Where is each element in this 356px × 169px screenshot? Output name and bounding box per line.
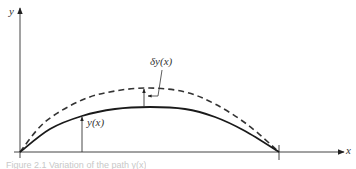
variation-diagram (0, 0, 356, 169)
figure-caption: Figure 2.1 Variation of the path y(x) (6, 161, 146, 169)
delta-y-label: δy(x) (150, 56, 172, 67)
x-axis-label: x (346, 145, 351, 156)
delta-y-leader-line (148, 70, 162, 96)
y-of-x-label: y(x) (87, 117, 104, 128)
y-axis-label: y (9, 6, 14, 17)
path-curve (20, 107, 279, 152)
varied-path-curve (20, 88, 279, 152)
